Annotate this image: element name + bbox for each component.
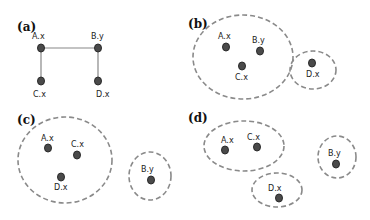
panel-d: (d) A.x C.x B.y D.x bbox=[188, 111, 356, 207]
panel-c: (c) A.x C.x D.x B.y bbox=[17, 113, 171, 203]
cluster-abc bbox=[193, 15, 293, 99]
node-a-x bbox=[223, 43, 230, 51]
node-d-x bbox=[276, 194, 283, 202]
node-d-x-label: D.x bbox=[306, 70, 320, 79]
panel-b: (b) A.x B.y C.x D.x bbox=[188, 15, 336, 99]
node-b-y-label: B.y bbox=[328, 149, 341, 158]
node-b-y bbox=[333, 160, 340, 168]
clustering-diagram: (a) A.x B.y C.x D.x (b) A.x B.y C.x D.x … bbox=[0, 0, 370, 220]
node-b-y-label: B.y bbox=[252, 36, 265, 45]
node-d-x-label: D.x bbox=[96, 90, 110, 99]
node-c-x-label: C.x bbox=[247, 133, 260, 142]
node-b-y bbox=[257, 47, 264, 55]
node-d-x bbox=[309, 59, 316, 67]
panel-a: (a) A.x B.y C.x D.x bbox=[17, 20, 110, 99]
node-d-x bbox=[95, 77, 102, 85]
node-b-y bbox=[95, 44, 102, 52]
node-d-x-label: D.x bbox=[268, 184, 282, 193]
panel-c-label: (c) bbox=[17, 113, 36, 127]
node-b-y-label: B.y bbox=[91, 32, 104, 41]
node-c-x bbox=[38, 77, 45, 85]
node-b-y-label: B.y bbox=[141, 165, 154, 174]
node-a-x-label: A.x bbox=[221, 136, 234, 145]
node-d-x bbox=[58, 173, 65, 181]
node-a-x-label: A.x bbox=[218, 32, 231, 41]
node-b-y bbox=[148, 176, 155, 184]
node-d-x-label: D.x bbox=[54, 183, 68, 192]
node-c-x bbox=[239, 62, 246, 70]
node-c-x bbox=[74, 151, 81, 159]
node-a-x-label: A.x bbox=[32, 32, 45, 41]
node-c-x-label: C.x bbox=[235, 73, 248, 82]
node-a-x-label: A.x bbox=[41, 134, 54, 143]
node-a-x bbox=[45, 144, 52, 152]
panel-d-label: (d) bbox=[188, 111, 208, 125]
panel-b-label: (b) bbox=[188, 17, 208, 31]
node-c-x bbox=[254, 143, 261, 151]
node-c-x-label: C.x bbox=[33, 90, 46, 99]
node-c-x-label: C.x bbox=[71, 140, 84, 149]
cluster-ac bbox=[204, 121, 284, 171]
diagram-svg: (a) A.x B.y C.x D.x (b) A.x B.y C.x D.x … bbox=[0, 0, 370, 220]
node-a-x bbox=[38, 44, 45, 52]
node-a-x bbox=[222, 146, 229, 154]
